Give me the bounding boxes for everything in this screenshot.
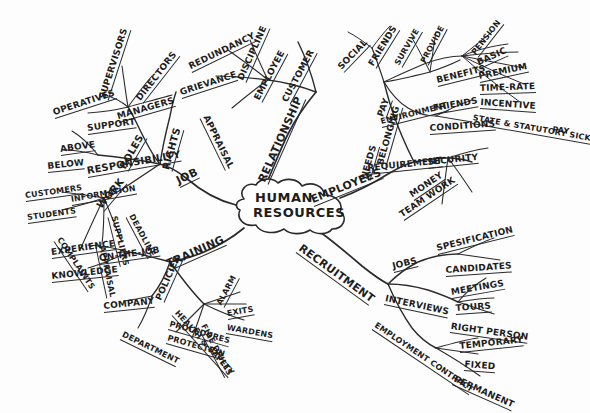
branch-label-policies[interactable]: POLICIES <box>154 255 183 303</box>
branch-label-provide[interactable]: PROVIDE <box>420 25 448 66</box>
branch-labels: JOB ROLES OPERATIVES SUPERVISORS DIRECTO… <box>0 0 590 413</box>
branch-label-appraisal-employee[interactable]: APPRAISAL <box>200 114 235 171</box>
branch-label-directors[interactable]: DIRECTORS <box>135 50 180 103</box>
branch-label-spesification[interactable]: SPESIFICATION <box>435 225 514 254</box>
branch-label-exits[interactable]: EXITS <box>226 305 254 319</box>
branch-label-tours[interactable]: TOURS <box>455 302 491 315</box>
branch-label-grievance[interactable]: GRIEVANCE <box>179 70 239 98</box>
branch-label-students[interactable]: STUDENTS <box>27 207 77 223</box>
branch-label-fixed[interactable]: FIXED <box>464 360 496 373</box>
branch-label-social[interactable]: SOCIAL <box>336 38 370 73</box>
branch-label-survive[interactable]: SURVIVE <box>394 28 423 68</box>
branch-label-jobs[interactable]: JOBS <box>391 256 418 272</box>
branch-label-alarm[interactable]: ALARM <box>216 274 240 307</box>
branch-label-candidates[interactable]: CANDIDATES <box>445 261 512 276</box>
branch-label-incentive[interactable]: INCENTIVE <box>480 98 536 112</box>
branch-label-time-rate[interactable]: TIME-RATE <box>480 82 536 94</box>
branch-label-wardens[interactable]: WARDENS <box>226 324 274 341</box>
branch-label-below[interactable]: BELOW <box>47 158 85 172</box>
branch-label-permanent[interactable]: PERMANENT <box>452 375 515 411</box>
branch-label-company[interactable]: COMPANY <box>103 297 155 313</box>
branch-label-job[interactable]: JOB <box>175 166 201 187</box>
branch-label-temporary[interactable]: TEMPORARY <box>459 335 524 352</box>
branch-label-supervisors[interactable]: SUPERVISORS <box>98 27 131 100</box>
branch-label-recruitment[interactable]: RECRUITMENT <box>296 242 377 305</box>
mind-map-canvas: HUMAN RESOURCES JOB ROLES OPERATIVES SUP… <box>0 0 590 413</box>
branch-label-pay-word[interactable]: PAY <box>552 126 570 136</box>
branch-label-friends-environment[interactable]: FRIENDS <box>432 96 479 114</box>
branch-label-interviews[interactable]: INTERVIEWS <box>384 294 450 318</box>
branch-label-meetings[interactable]: MEETINGS <box>450 279 505 299</box>
branch-label-above[interactable]: ABOVE <box>60 140 96 155</box>
branch-label-support[interactable]: SUPPORT <box>87 117 137 134</box>
branch-label-relationship[interactable]: RELATIONSHIP <box>257 95 306 185</box>
branch-label-conditions[interactable]: CONDITIONS <box>429 119 495 134</box>
